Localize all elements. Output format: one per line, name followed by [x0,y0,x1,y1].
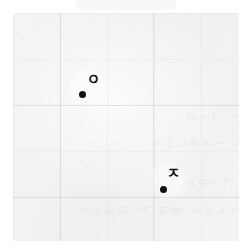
data-point-marker-a[interactable]: ㅇ [69,69,115,109]
scanned-page-panel: ㅇㅈㅅㄴㅡ ㄱㅡㄹ ㅂㅎㄴ ㅡㅅㅈㄴㅣㅡ ㄴㅡㅅ ㄱㅡㄹㅂ ㅅㄴ ㅡㅅㅈㄴ ㅂㅎ… [13,13,239,241]
faded-header-block [76,0,176,10]
data-point-marker-b[interactable]: ㅈ [150,161,198,203]
gridline-horizontal-major [13,105,239,106]
marker-dot-icon [79,91,86,98]
chart-gridlines [13,13,239,241]
marker-label-b: ㅈ [167,166,180,180]
gridline-vertical-major [60,13,61,241]
marker-label-a: ㅇ [87,72,100,86]
gridline-vertical-major [153,13,154,241]
gridline-horizontal-major [13,197,239,198]
screenshot-canvas: ㅇㅈㅅㄴㅡ ㄱㅡㄹ ㅂㅎㄴ ㅡㅅㅈㄴㅣㅡ ㄴㅡㅅ ㄱㅡㄹㅂ ㅅㄴ ㅡㅅㅈㄴ ㅂㅎ… [0,0,248,248]
marker-dot-icon [160,186,167,193]
